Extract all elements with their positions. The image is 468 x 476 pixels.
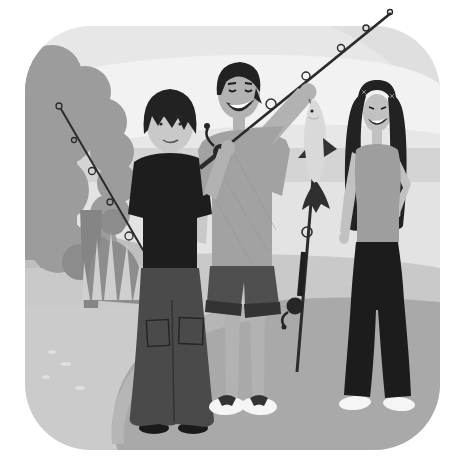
fishing-illustration bbox=[0, 0, 468, 476]
boy-middle-fist bbox=[300, 83, 317, 101]
illustration-svg bbox=[0, 0, 468, 476]
fish-eye bbox=[310, 109, 313, 112]
rod-standing-reel bbox=[287, 298, 304, 315]
girl-neck bbox=[372, 130, 382, 144]
girl-tank-top bbox=[355, 144, 401, 242]
girl-face bbox=[363, 94, 391, 132]
rod-shoulder-reel-knob bbox=[204, 123, 210, 129]
girl-hand-hanging bbox=[339, 232, 349, 244]
boy-middle-grip-hand bbox=[221, 140, 235, 156]
boy-middle-leg-left bbox=[225, 310, 240, 398]
rod-standing-reel-knob bbox=[282, 325, 287, 330]
boy-middle-leg-right bbox=[250, 310, 265, 398]
boy-left-pants bbox=[130, 268, 214, 427]
rod-standing-grip bbox=[300, 252, 304, 296]
